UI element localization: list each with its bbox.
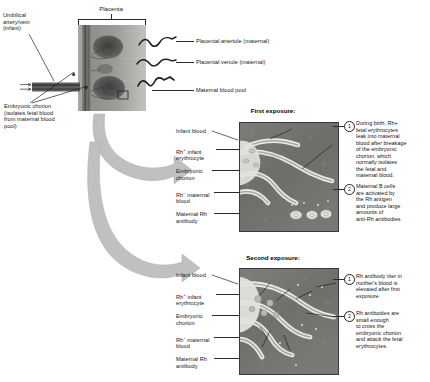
placental-arteriole-leader	[176, 41, 194, 42]
maternal-blood-pool-vessel	[136, 74, 178, 90]
maternal-blood-pool-label: Maternal blood pool	[196, 87, 316, 94]
first-panel-leader-infant-blood	[212, 130, 240, 142]
placental-venule-label: Placental venule (maternal)	[196, 59, 316, 66]
second-panel-callout-1-leader	[333, 279, 344, 280]
second-panel-leader-chorion	[212, 315, 240, 316]
placental-arteriole-vessel	[138, 35, 178, 49]
maternal-blood-pool-leader	[152, 90, 194, 91]
second-exposure-illustration	[239, 268, 339, 375]
placental-venule-leader	[176, 62, 194, 63]
first-panel-leader-chorion	[212, 170, 240, 171]
embryonic-chorion-leaders-top	[26, 70, 96, 104]
second-panel-callout-2-number: 2	[344, 311, 355, 322]
first-exposure-title-line1: First exposure:	[251, 107, 296, 114]
first-exposure-illustration	[239, 122, 339, 232]
first-panel-leader-erythrocyte	[216, 149, 240, 150]
first-panel-leader-maternal-blood	[214, 192, 240, 193]
first-panel-callout-2-number: 2	[344, 184, 355, 195]
placenta-bracket-stem	[111, 14, 112, 19]
embryonic-chorion-label-top: Embryonic chorion (isolates fetal blood …	[4, 103, 68, 129]
first-panel-callout-1-text: During birth, Rh+ fetal erythrocytes lea…	[356, 120, 428, 179]
second-panel-callout-2-leader	[333, 316, 344, 317]
second-panel-leader-antibody	[214, 358, 240, 359]
second-panel-leader-maternal-blood	[214, 337, 240, 338]
first-panel-leader-antibody	[214, 213, 240, 214]
second-panel-callout-1-number: 1	[344, 274, 355, 285]
placenta-bracket	[78, 19, 146, 25]
placental-arteriole-label: Placental arteriole (maternal)	[196, 38, 316, 45]
umbilical-artery-vein-label: Umbilical artery/vein (infant)	[3, 12, 55, 32]
placenta-label: Placenta	[80, 6, 142, 13]
first-panel-callout-2-leader	[333, 189, 344, 190]
second-panel-callout-1-text: Rh antibody titer in mother's blood is e…	[356, 273, 428, 299]
first-panel-callout-1-number: 1	[344, 121, 355, 132]
placental-venule-vessel	[136, 56, 178, 69]
first-panel-callout-1-leader	[333, 126, 344, 127]
second-panel-leader-erythrocyte	[216, 294, 240, 295]
second-panel-leader-infant-blood	[212, 274, 240, 286]
first-panel-callout-2-text: Maternal B cells are activated by the Rh…	[356, 183, 428, 222]
rh-incompatibility-figure: Placenta	[0, 0, 430, 382]
second-panel-callout-2-text: Rh antibodies are small enough to cross …	[356, 310, 428, 349]
second-exposure-title-line1: Second exposure:	[246, 254, 300, 261]
